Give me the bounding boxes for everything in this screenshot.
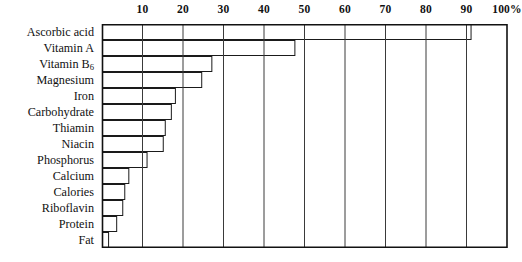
bar-iron xyxy=(103,89,176,104)
category-label-vitamin-a: Vitamin A xyxy=(44,40,94,56)
bar-vitamin-b6 xyxy=(103,57,212,72)
category-label-riboflavin: Riboflavin xyxy=(42,200,94,216)
x-tick-label-20: 20 xyxy=(177,3,189,15)
bar-calories xyxy=(103,185,125,200)
bar-thiamin xyxy=(103,121,166,136)
category-label-niacin: Niacin xyxy=(62,136,95,152)
category-label-ascorbic-acid: Ascorbic acid xyxy=(27,24,94,40)
bar-chart: 102030405060708090100% Ascorbic acidVita… xyxy=(0,0,522,262)
bar-carbohydrate xyxy=(103,105,172,120)
x-tick-label-40: 40 xyxy=(258,3,270,15)
bar-niacin xyxy=(103,137,164,152)
bar-riboflavin xyxy=(103,201,123,216)
bar-fat xyxy=(103,233,109,248)
category-label-calories: Calories xyxy=(53,184,94,200)
category-label-calcium: Calcium xyxy=(53,168,94,184)
x-axis-tick-labels: 102030405060708090100% xyxy=(0,0,522,22)
category-label-phosphorus: Phosphorus xyxy=(37,152,94,168)
plot-area xyxy=(102,24,507,248)
x-tick-label-80: 80 xyxy=(420,3,432,15)
x-tick-label-10: 10 xyxy=(137,3,149,15)
x-tick-label-90: 90 xyxy=(461,3,473,15)
y-axis-category-labels: Ascorbic acidVitamin AVitamin B6Magnesiu… xyxy=(0,24,98,248)
x-tick-label-60: 60 xyxy=(339,3,351,15)
x-tick-label-100: 100% xyxy=(492,3,522,15)
x-tick-label-70: 70 xyxy=(380,3,392,15)
category-label-carbohydrate: Carbohydrate xyxy=(28,104,94,120)
plot-svg xyxy=(102,24,507,248)
x-tick-label-50: 50 xyxy=(299,3,311,15)
category-label-protein: Protein xyxy=(59,216,94,232)
bar-calcium xyxy=(103,169,129,184)
category-label-vitamin-b6: Vitamin B6 xyxy=(39,56,94,72)
bar-phosphorus xyxy=(103,153,148,168)
category-label-fat: Fat xyxy=(78,232,94,248)
bar-protein xyxy=(103,217,117,232)
x-tick-label-30: 30 xyxy=(218,3,230,15)
bar-magnesium xyxy=(103,73,202,88)
bar-vitamin-a xyxy=(103,41,295,56)
category-label-iron: Iron xyxy=(74,88,94,104)
category-label-magnesium: Magnesium xyxy=(36,72,94,88)
bar-ascorbic-acid xyxy=(103,25,472,40)
category-label-thiamin: Thiamin xyxy=(53,120,94,136)
